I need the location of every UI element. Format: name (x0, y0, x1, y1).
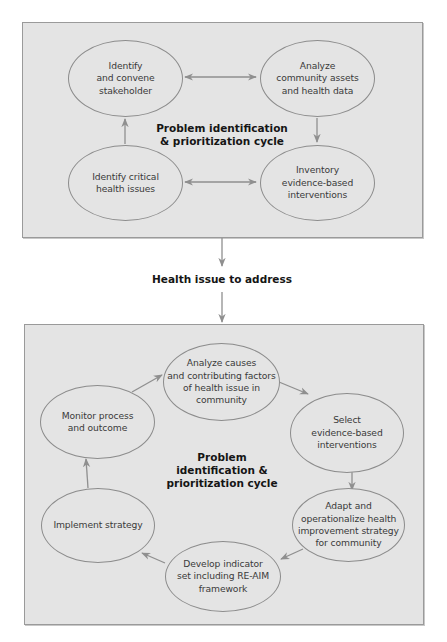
node-develop: Develop indicator set including RE-AIM f… (165, 541, 281, 612)
health-issue-label: Health issue to address (122, 273, 322, 285)
node-label: Identify and convene stakeholder (96, 60, 154, 97)
node-label: Inventory evidence-based interventions (282, 164, 353, 201)
node-identify-convene: Identify and convene stakeholder (68, 40, 183, 117)
node-select: Select evidence-based interventions (290, 393, 404, 473)
node-label: Analyze causes and contributing factors … (167, 357, 275, 407)
node-analyze-causes: Analyze causes and contributing factors … (163, 343, 280, 421)
node-label: Implement strategy (53, 519, 142, 531)
node-adapt: Adapt and operationalize health improvem… (292, 488, 405, 562)
node-identify-critical: Identify critical health issues (68, 145, 183, 221)
node-monitor: Monitor process and outcome (40, 385, 155, 459)
bottom-cycle-title: Problem identification & prioritization … (152, 451, 292, 490)
node-label: Analyze community assets and health data (276, 60, 358, 97)
node-inventory: Inventory evidence-based interventions (260, 145, 375, 221)
node-implement: Implement strategy (41, 488, 155, 563)
top-cycle-title: Problem identification & prioritization … (142, 122, 302, 148)
node-label: Develop indicator set including RE-AIM f… (177, 558, 269, 595)
node-analyze-community: Analyze community assets and health data (260, 40, 375, 117)
node-label: Identify critical health issues (92, 171, 159, 196)
node-label: Monitor process and outcome (62, 410, 134, 435)
node-label: Select evidence-based interventions (311, 414, 382, 451)
node-label: Adapt and operationalize health improvem… (298, 500, 399, 550)
